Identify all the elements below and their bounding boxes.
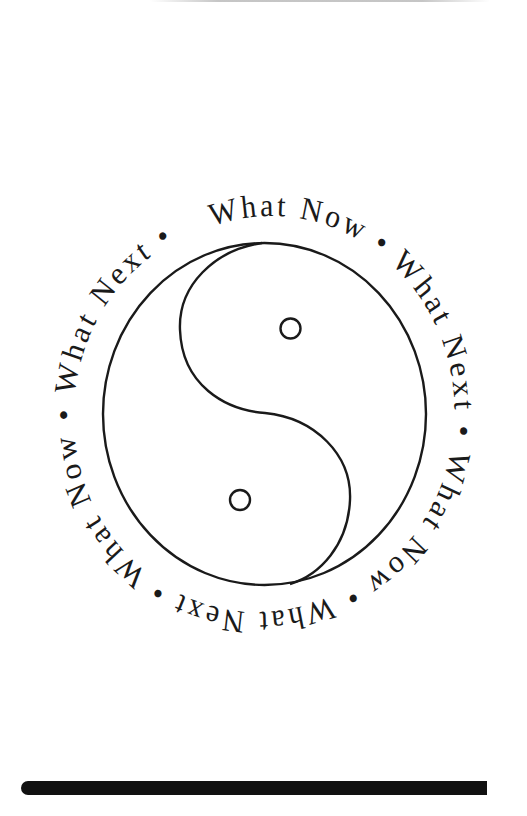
bottom-rule xyxy=(21,781,487,795)
upper-eye-circle xyxy=(281,319,301,339)
lower-eye-circle xyxy=(230,490,250,510)
s-curve xyxy=(180,243,350,584)
yin-yang-emblem: What Now • What Next • What Now • What N… xyxy=(0,0,527,816)
yin-yang-icon xyxy=(103,243,426,585)
